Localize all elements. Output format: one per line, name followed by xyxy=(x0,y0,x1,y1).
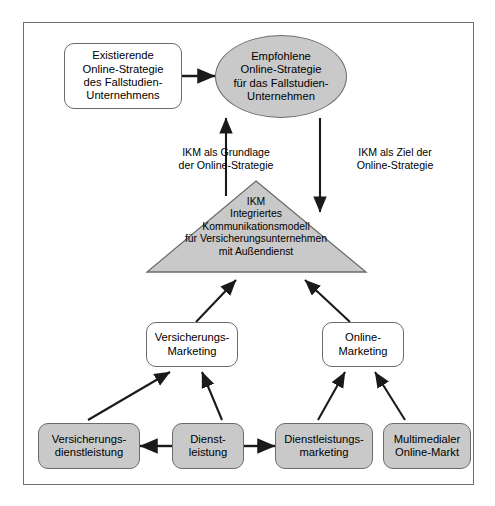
edge-label-ikm-als-ziel: IKM als Ziel der Online-Strategie xyxy=(330,146,460,172)
node-dienstleistungsmarketing-label: Dienstleistungs- marketing xyxy=(281,433,367,460)
node-existing-online-strategy-label: Existierende Online-Strategie des Fallst… xyxy=(80,49,167,103)
node-online-marketing[interactable]: Online- Marketing xyxy=(322,322,404,367)
node-versicherungs-marketing[interactable]: Versicherungs- Marketing xyxy=(146,322,238,367)
edge-label-ikm-als-grundlage: IKM als Grundlage der Online-Strategie xyxy=(152,146,300,172)
node-dienstleistung-label: Dienst- leistung xyxy=(186,433,231,460)
node-multimedialer-online-markt[interactable]: Multimedialer Online-Markt xyxy=(383,423,471,469)
diagram-canvas: Existierende Online-Strategie des Fallst… xyxy=(0,0,495,506)
node-recommended-online-strategy[interactable]: Empfohlene Online-Strategie für das Fall… xyxy=(215,35,347,118)
node-dienstleistung[interactable]: Dienst- leistung xyxy=(172,423,244,469)
node-versicherungsdienstleistung-label: Versicherungs- dienstleistung xyxy=(49,433,130,460)
node-versicherungs-marketing-label: Versicherungs- Marketing xyxy=(152,331,233,358)
node-multimedialer-online-markt-label: Multimedialer Online-Markt xyxy=(391,433,464,460)
node-ikm-triangle-label: IKM Integriertes Kommunikationsmodell fü… xyxy=(150,196,362,258)
node-versicherungsdienstleistung[interactable]: Versicherungs- dienstleistung xyxy=(38,423,140,469)
node-online-marketing-label: Online- Marketing xyxy=(335,331,390,358)
node-existing-online-strategy[interactable]: Existierende Online-Strategie des Fallst… xyxy=(64,43,182,109)
node-dienstleistungsmarketing[interactable]: Dienstleistungs- marketing xyxy=(275,423,373,469)
node-recommended-online-strategy-label: Empfohlene Online-Strategie für das Fall… xyxy=(230,50,331,104)
